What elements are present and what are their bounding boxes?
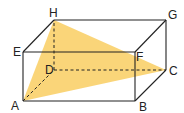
label-h: H — [49, 6, 58, 20]
label-b: B — [139, 100, 147, 113]
label-g: G — [168, 8, 177, 22]
label-f: F — [136, 50, 143, 64]
label-e: E — [13, 45, 21, 59]
shaded-triangle-ahc — [23, 20, 166, 101]
label-c: C — [169, 64, 178, 78]
edge-gf — [135, 20, 166, 52]
label-a: A — [11, 99, 19, 113]
label-d: D — [45, 63, 54, 77]
cuboid-diagram: A B C D E F G H — [0, 0, 184, 113]
